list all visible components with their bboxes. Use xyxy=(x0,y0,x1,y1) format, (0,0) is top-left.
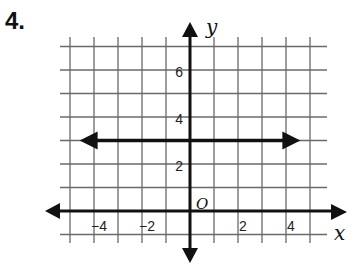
x-axis-left-arrow-icon xyxy=(45,203,60,219)
line-right-arrow-icon xyxy=(282,132,300,150)
line-left-arrow-icon xyxy=(80,132,98,150)
y-axis-up-arrow-icon xyxy=(182,22,198,37)
y-axis-label: y xyxy=(205,15,218,39)
y-tick-label: 4 xyxy=(175,111,183,127)
y-axis-down-arrow-icon xyxy=(182,248,198,263)
x-tick-label: −2 xyxy=(139,218,155,234)
coordinate-plane: xyO−4−224246 xyxy=(0,0,362,279)
x-tick-label: 2 xyxy=(239,218,247,234)
x-tick-label: −4 xyxy=(91,218,107,234)
x-tick-label: 4 xyxy=(287,218,295,234)
y-tick-label: 2 xyxy=(175,158,183,174)
x-axis-right-arrow-icon xyxy=(331,204,347,220)
y-tick-label: 6 xyxy=(175,64,183,80)
origin-label: O xyxy=(196,195,208,213)
x-axis-label: x xyxy=(334,221,345,245)
